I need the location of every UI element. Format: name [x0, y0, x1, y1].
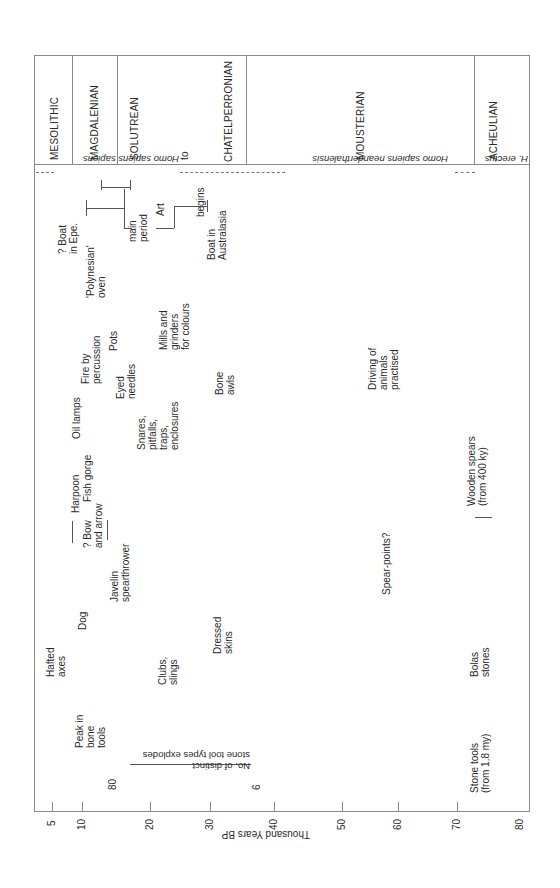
tick	[342, 802, 343, 812]
event-main-period: main period	[127, 214, 149, 242]
tick	[457, 802, 458, 812]
event-dog: Dog	[77, 612, 88, 630]
bracket	[174, 206, 175, 228]
event-oil-lamps: Oil lamps	[71, 397, 82, 439]
label-neanderthalensis: Homo sapiens neanderthalensis	[312, 154, 448, 165]
tick-label: 80	[514, 819, 525, 830]
label-count-6: 6	[251, 784, 262, 790]
tick-label: 5	[46, 820, 57, 826]
bracket	[86, 208, 124, 209]
bracket	[130, 180, 131, 190]
event-pots: Pots	[108, 331, 119, 351]
range-marker	[107, 520, 108, 540]
tick	[398, 802, 399, 812]
period-divider	[246, 55, 247, 164]
diagram-frame	[34, 55, 530, 812]
hominid-dash	[36, 172, 54, 173]
event-wooden-spears: Wooden spears (from 400 ky)	[466, 436, 488, 506]
event-fish-gorge: Fish gorge	[82, 455, 93, 502]
event-javelin: Javelin spearthrower	[109, 544, 131, 602]
tick-label: 60	[392, 819, 403, 830]
tick	[150, 802, 151, 812]
period-chatelperronian: CHATELPERRONIAN	[223, 61, 234, 162]
period-mousterian: MOUSTERIAN	[355, 91, 366, 160]
hominid-dash	[455, 172, 475, 173]
label-stone-tool-types: No. of distinct stone tool types explode…	[143, 750, 250, 772]
period-to: to	[179, 151, 190, 160]
event-spear-points: Spear-points?	[381, 533, 392, 595]
event-peak-bone-tools: Peak in bone tools	[74, 715, 107, 748]
tick	[274, 802, 275, 812]
bracket	[124, 189, 125, 229]
bracket	[101, 187, 130, 188]
event-bone-awls: Bone awls	[214, 372, 236, 395]
event-art: Art	[155, 203, 166, 216]
axis-title: Thousand Years BP	[222, 829, 310, 840]
label-h-erectus: H. erectus	[485, 154, 528, 165]
bracket	[101, 180, 102, 190]
event-begins: begins	[195, 188, 206, 217]
event-bolas: Bolas stones	[469, 648, 491, 677]
period-divider	[72, 55, 73, 164]
event-hafted-axes: Hafted axes	[45, 648, 67, 677]
bracket	[156, 228, 174, 229]
event-dressed-skins: Dressed skins	[212, 617, 234, 654]
event-eyed-needles: Eyed needles	[115, 364, 137, 399]
tick	[82, 802, 83, 812]
period-divider	[474, 55, 475, 164]
period-divider	[117, 55, 118, 164]
tick-label: 10	[76, 819, 87, 830]
event-clubs: Clubs, slings	[157, 657, 179, 685]
range-marker	[72, 521, 73, 543]
tick-label: 70	[451, 819, 462, 830]
tick	[52, 802, 53, 812]
event-mills: Mills and grinders for colours	[158, 303, 191, 350]
label-homo-sapiens-sapiens: Homo sapiens sapiens	[83, 154, 179, 165]
event-snares: Snares, pitfalls, traps, enclosures	[136, 402, 180, 450]
tick	[210, 802, 211, 812]
period-magdalenian: MAGDALENIAN	[89, 85, 100, 160]
tick-label: 20	[144, 819, 155, 830]
period-acheulian: ACHEULIAN	[488, 101, 499, 160]
period-mesolithic: MESOLITHIC	[49, 97, 60, 160]
event-stone-tools: Stone tools (from 1.8 my)	[469, 734, 491, 793]
tick-label: 50	[336, 819, 347, 830]
event-boat-epe: ? Boat in Epe.	[57, 223, 79, 254]
event-polynesian-oven: 'Polynesian' oven	[85, 245, 107, 298]
hominid-dash	[180, 172, 285, 173]
event-boat-australasia: Boat in Australasia	[206, 211, 228, 260]
tick-label: 30	[204, 819, 215, 830]
event-harpoon: Harpoon	[70, 475, 81, 513]
label-count-80: 80	[107, 779, 118, 790]
event-driving-animals: Driving of animals practised	[367, 348, 400, 390]
period-solutrean: SOLUTREAN	[129, 97, 140, 160]
event-fire: Fire by percussion	[80, 336, 102, 384]
event-bow-arrow: ? Bow and arrow	[82, 504, 104, 548]
arrow	[475, 517, 492, 518]
